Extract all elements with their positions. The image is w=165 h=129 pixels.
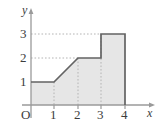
x-tick-label-3: 3 [97, 108, 104, 121]
origin-label: O [21, 108, 30, 121]
x-tick-label-1: 1 [50, 108, 57, 121]
y-tick-label-3: 3 [20, 27, 27, 40]
function-graph-figure: 3 2 1 O 1 2 3 4 y x [0, 0, 165, 129]
y-tick-label-1: 1 [20, 75, 27, 88]
y-tick-label-2: 2 [20, 51, 27, 64]
x-tick-label-4: 4 [121, 108, 128, 121]
x-tick-label-2: 2 [74, 108, 81, 121]
y-axis-arrow-icon [29, 8, 34, 14]
y-axis-label: y [22, 4, 27, 16]
x-axis-label: x [147, 107, 152, 119]
